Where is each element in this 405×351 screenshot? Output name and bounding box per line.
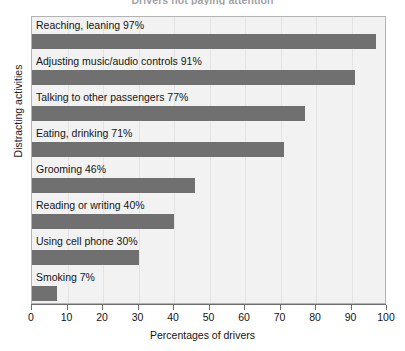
x-axis-tick: [67, 305, 68, 310]
x-axis-title: Percentages of drivers: [0, 329, 405, 341]
x-axis-tick-label: 70: [260, 311, 300, 323]
x-axis-tick-label: 60: [224, 311, 264, 323]
x-axis-tick-label: 80: [295, 311, 335, 323]
bar: [32, 106, 305, 121]
bar-row: Reaching, leaning 97%: [32, 17, 385, 53]
bar: [32, 70, 355, 85]
x-axis-tick-label: 20: [82, 311, 122, 323]
x-axis-tick: [351, 305, 352, 310]
bar-chart-figure: Drivers not paying attention Distracting…: [0, 0, 405, 351]
bar-label: Reaching, leaning 97%: [36, 18, 144, 33]
bar-row: Reading or writing 40%: [32, 197, 385, 233]
y-axis-title: Distracting activities: [12, 41, 24, 181]
x-axis-tick-label: 30: [118, 311, 158, 323]
bar-label: Smoking 7%: [36, 270, 95, 285]
bar-row: Talking to other passengers 77%: [32, 89, 385, 125]
x-axis-tick: [244, 305, 245, 310]
bar: [32, 34, 376, 49]
x-axis-tick-label: 0: [11, 311, 51, 323]
bar-label: Talking to other passengers 77%: [36, 90, 188, 105]
x-axis-tick: [102, 305, 103, 310]
x-axis-tick-label: 40: [153, 311, 193, 323]
bar: [32, 286, 57, 301]
bar-label: Grooming 46%: [36, 162, 106, 177]
bar-row: Grooming 46%: [32, 161, 385, 197]
x-axis-tick: [173, 305, 174, 310]
x-axis-tick: [315, 305, 316, 310]
x-axis-tick-label: 50: [189, 311, 229, 323]
bar: [32, 250, 139, 265]
x-axis-tick-label: 100: [366, 311, 405, 323]
x-axis-tick-label: 90: [331, 311, 371, 323]
x-axis-tick-label: 10: [47, 311, 87, 323]
plot-area: Reaching, leaning 97%Adjusting music/aud…: [31, 16, 386, 304]
x-axis-tick: [138, 305, 139, 310]
bar: [32, 178, 195, 193]
x-axis-tick: [209, 305, 210, 310]
bar-label: Using cell phone 30%: [36, 234, 138, 249]
bar: [32, 214, 174, 229]
x-axis-tick: [386, 305, 387, 310]
bar-label: Eating, drinking 71%: [36, 126, 132, 141]
bar: [32, 142, 284, 157]
chart-title: Drivers not paying attention: [0, 0, 405, 5]
bar-row: Smoking 7%: [32, 269, 385, 304]
bar-row: Adjusting music/audio controls 91%: [32, 53, 385, 89]
bar-label: Reading or writing 40%: [36, 198, 145, 213]
bar-row: Eating, drinking 71%: [32, 125, 385, 161]
x-axis-tick: [31, 305, 32, 310]
bar-row: Using cell phone 30%: [32, 233, 385, 269]
x-axis-tick: [280, 305, 281, 310]
bar-label: Adjusting music/audio controls 91%: [36, 54, 202, 69]
